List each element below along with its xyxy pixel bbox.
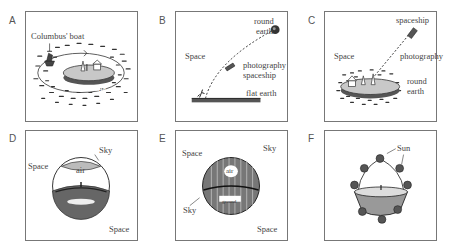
label-space: Space [185,52,205,61]
panel-letter-d: D [9,133,16,144]
label-earth: earth [407,87,424,96]
label-spaceship: spaceship [396,16,429,25]
label-earth: earth [256,27,273,36]
panel-letter-e: E [159,133,166,144]
boat-icon [45,53,55,66]
label-sun: Sun [397,144,410,153]
label-photography: photography [400,52,443,61]
label-spaceship: spaceship [243,71,276,80]
label-photography: photography [243,61,286,70]
panel-letter-a: A [9,15,16,26]
label-flat-earth: flat earth [246,89,276,98]
flat-earth-ground [192,98,261,102]
panel-f: Sun [324,130,437,241]
label-sky: Sky [183,206,196,215]
label-round: round [407,77,427,86]
flat-earth-ocean-illustration [26,12,137,121]
label-sky: Sky [263,144,276,153]
label-round: round [254,17,274,26]
label-columbus-boat: Columbus' boat [31,32,84,41]
panel-letter-c: C [308,15,315,26]
panel-letter-b: B [159,15,166,26]
panel-e: Space Sky air Sky ground Space [175,130,288,241]
label-air: air [76,166,85,175]
spaceship-icon [408,28,418,39]
label-space: Space [257,225,277,234]
panel-d: Sky Space air Space [25,130,138,241]
label-space: Space [28,162,48,171]
label-round-earth: round earth [75,85,106,94]
person-icon [198,90,205,98]
label-air: air [226,167,233,176]
label-space: Space [182,149,202,158]
panel-c: spaceship Space photography round earth [324,11,437,122]
round-earth-photography-illustration [325,12,436,121]
label-space: Space [334,52,354,61]
label-space: Space [109,225,129,234]
sun-orbit-basket-illustration [325,131,436,240]
label-ground: ground [222,197,236,206]
panel-a: Columbus' boat round earth [25,11,138,122]
panel-letter-f: F [308,133,314,144]
panel-b: round earth Space photography spaceship … [175,11,288,122]
label-sky: Sky [99,146,112,155]
